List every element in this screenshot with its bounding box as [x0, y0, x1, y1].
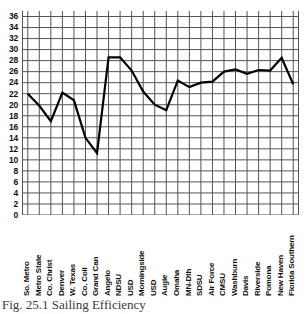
- x-axis-tick: Davis: [242, 276, 250, 296]
- y-axis-tick: 2: [13, 200, 18, 209]
- y-axis-tick: 22: [9, 90, 18, 99]
- x-axis-tick: Washburn: [231, 259, 239, 296]
- x-axis-tick: CMSU: [219, 273, 227, 296]
- chart-data-line: [22, 11, 299, 215]
- x-axis-tick-labels: So. MetroMetro StateCo. ChristDenverW. T…: [22, 216, 299, 296]
- x-axis-tick: MN-Dth: [185, 269, 193, 296]
- x-axis-tick: Omaha: [173, 270, 181, 296]
- x-axis-tick: Pomona: [265, 266, 273, 296]
- y-axis-tick: 20: [9, 101, 18, 110]
- x-axis-tick: Angelo: [104, 270, 112, 296]
- y-axis-tick: 4: [13, 189, 18, 198]
- y-axis-tick: 16: [9, 123, 18, 132]
- x-axis-tick: So. Metro: [23, 261, 31, 296]
- x-axis-tick: NDSU: [115, 274, 123, 296]
- y-axis-tick: 12: [9, 145, 18, 154]
- y-axis-tick: 36: [9, 12, 18, 21]
- y-axis-tick: 10: [9, 156, 18, 165]
- x-axis-tick: USD: [127, 280, 135, 296]
- x-axis-tick: Florida Southern: [288, 235, 296, 296]
- y-axis-tick: 32: [9, 34, 18, 43]
- y-axis-tick: 6: [13, 178, 18, 187]
- x-axis-tick: Denver: [58, 270, 66, 296]
- x-axis-tick: Grand Can: [92, 257, 100, 296]
- y-axis-tick: 24: [9, 78, 18, 87]
- figure-caption: Fig. 25.1 Sailing Efficiency: [2, 297, 306, 314]
- x-axis-tick: Co. Christ: [46, 260, 54, 296]
- y-axis-tick: 28: [9, 56, 18, 65]
- figure-container: 024681012141618202224262830323436 So. Me…: [0, 0, 308, 314]
- x-axis-tick: Air Force: [208, 263, 216, 296]
- y-axis-tick: 30: [9, 45, 18, 54]
- x-axis-tick: Morningside: [138, 251, 146, 296]
- x-axis-tick: Augie: [161, 275, 169, 296]
- x-axis-tick: W. Texas: [69, 264, 77, 296]
- y-axis-tick: 26: [9, 67, 18, 76]
- y-axis-tick: 34: [9, 23, 18, 32]
- plot-area: [22, 11, 299, 215]
- x-axis-tick: New Haven: [277, 255, 285, 296]
- x-axis-tick: SDSU: [196, 275, 204, 296]
- x-axis-tick: USD: [150, 280, 158, 296]
- y-axis-tick: 14: [9, 134, 18, 143]
- x-axis-tick: Riverside: [254, 262, 262, 296]
- x-axis-tick: Metro State: [35, 255, 43, 296]
- y-axis-tick-labels: 024681012141618202224262830323436: [0, 0, 21, 220]
- y-axis-tick: 0: [13, 211, 18, 220]
- y-axis-tick: 18: [9, 112, 18, 121]
- y-axis-tick: 8: [13, 167, 18, 176]
- x-axis-tick: Co. Coll: [81, 267, 89, 296]
